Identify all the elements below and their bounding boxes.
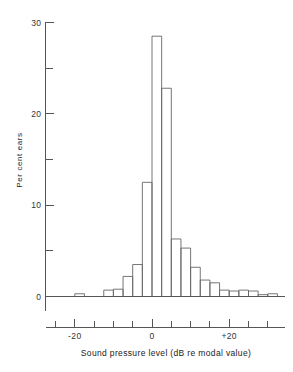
histogram-bar — [220, 290, 230, 296]
histogram-svg: 0102030 -200+20 Sound pressure level (dB… — [0, 0, 293, 372]
histogram-bar — [249, 291, 259, 296]
y-tick-label: 30 — [31, 18, 41, 28]
x-tick-label: -20 — [68, 331, 82, 341]
histogram-bar — [104, 290, 114, 296]
y-tick-label: 10 — [31, 200, 41, 210]
y-axis-ticks: 0102030 — [31, 18, 53, 302]
x-tick-label: +20 — [221, 331, 237, 341]
histogram-bar — [200, 280, 210, 296]
y-tick-label: 0 — [36, 292, 41, 302]
histogram-bar — [171, 239, 181, 297]
x-axis-title: Sound pressure level (dB re modal value) — [81, 348, 251, 358]
histogram-bars — [75, 36, 278, 296]
histogram-bar — [152, 36, 162, 296]
x-axis-ticks: -200+20 — [56, 319, 268, 341]
histogram-bar — [239, 290, 249, 296]
histogram-bar — [162, 88, 172, 296]
plot-area: 0102030 -200+20 Sound pressure level (dB… — [0, 0, 293, 372]
histogram-figure: 0102030 -200+20 Sound pressure level (dB… — [0, 0, 293, 372]
histogram-bar — [133, 265, 143, 297]
histogram-bar — [113, 289, 123, 296]
histogram-bar — [181, 248, 191, 296]
y-axis-title: Per cent ears — [15, 132, 24, 187]
histogram-bar — [123, 276, 133, 296]
histogram-bar — [229, 291, 239, 296]
histogram-bar — [142, 182, 152, 296]
y-tick-label: 20 — [31, 109, 41, 119]
x-tick-label: 0 — [149, 331, 154, 341]
histogram-bar — [191, 267, 201, 296]
histogram-bar — [210, 283, 220, 297]
